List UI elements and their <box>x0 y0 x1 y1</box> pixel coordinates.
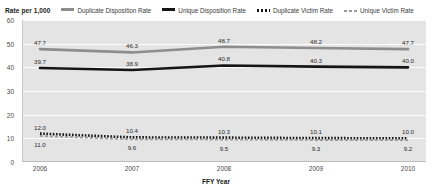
data-point-label: 38.9 <box>126 59 138 66</box>
legend-label: Unique Disposition Rate <box>178 7 246 14</box>
data-point-label: 11.0 <box>34 140 46 147</box>
x-tick-label: 2008 <box>217 165 231 172</box>
data-point-label: 10.3 <box>218 127 230 134</box>
data-point-label: 48.7 <box>218 36 230 43</box>
legend-label: Duplicate Victim Rate <box>273 7 333 14</box>
data-point-label: 12.0 <box>34 123 46 130</box>
data-point-label: 9.5 <box>220 144 229 151</box>
data-point-label: 9.3 <box>312 144 321 151</box>
series-line <box>40 47 408 53</box>
data-point-label: 40.8 <box>218 55 230 62</box>
y-tick-label: 30 <box>0 88 14 95</box>
legend-label: Unique Victim Rate <box>360 7 414 14</box>
plot-area: 0102030405060 47.746.348.748.247.739.738… <box>22 20 426 162</box>
data-point-label: 48.2 <box>310 37 322 44</box>
legend-swatch-dashed-gray-icon <box>344 10 357 12</box>
legend-title: Rate per 1,000 <box>5 7 50 14</box>
data-point-label: 47.7 <box>34 39 46 46</box>
legend-swatch-solid-gray-icon <box>61 8 74 14</box>
line-chart: Rate per 1,000 Duplicate Disposition Rat… <box>0 0 432 193</box>
data-point-label: 10.1 <box>310 128 322 135</box>
y-tick-label: 50 <box>0 40 14 47</box>
legend-entry-duplicate-victim-rate: Duplicate Victim Rate <box>257 7 333 14</box>
x-tick-label: 2010 <box>401 165 415 172</box>
data-point-label: 10.0 <box>402 128 414 135</box>
y-tick-label: 20 <box>0 111 14 118</box>
y-tick-label: 40 <box>0 64 14 71</box>
legend-swatch-solid-black-icon <box>162 8 175 14</box>
legend-entry-unique-disposition-rate: Unique Disposition Rate <box>162 7 246 14</box>
data-point-label: 47.7 <box>402 39 414 46</box>
x-tick-labels: 20062007200820092010 <box>22 165 426 177</box>
y-tick-label: 0 <box>0 159 14 166</box>
data-point-label: 40.0 <box>402 57 414 64</box>
x-tick-label: 2006 <box>33 165 47 172</box>
series-line <box>40 65 408 69</box>
data-point-label: 9.2 <box>404 145 413 152</box>
y-tick-label: 10 <box>0 135 14 142</box>
data-point-label: 10.4 <box>126 127 138 134</box>
x-axis-title: FFY Year <box>0 178 432 185</box>
x-tick-label: 2007 <box>125 165 139 172</box>
data-point-label: 9.6 <box>128 144 137 151</box>
x-tick-label: 2009 <box>309 165 323 172</box>
y-tick-label: 60 <box>0 17 14 24</box>
data-point-label: 40.3 <box>310 56 322 63</box>
legend-entry-duplicate-disposition-rate: Duplicate Disposition Rate <box>61 7 151 14</box>
data-point-label: 39.7 <box>34 58 46 65</box>
legend-entry-unique-victim-rate: Unique Victim Rate <box>344 7 414 14</box>
legend-swatch-dotted-black-icon <box>257 9 270 12</box>
chart-legend: Rate per 1,000 Duplicate Disposition Rat… <box>0 0 432 20</box>
data-point-label: 46.3 <box>126 42 138 49</box>
legend-label: Duplicate Disposition Rate <box>77 7 151 14</box>
